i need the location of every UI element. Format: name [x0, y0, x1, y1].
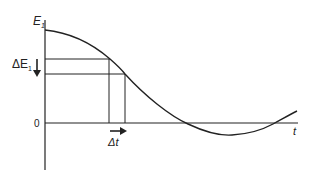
- origin-label: 0: [34, 118, 40, 129]
- y-axis-label: E1: [33, 14, 45, 29]
- energy-curve: [45, 30, 297, 135]
- delta-e-label: ΔE1: [12, 57, 32, 72]
- delta-e-arrowhead-icon: [33, 70, 41, 77]
- x-axis-label: t: [293, 125, 297, 137]
- delta-t-label: Δt: [107, 136, 119, 148]
- energy-time-diagram: E1 ΔE1 0 Δt t: [0, 0, 314, 179]
- delta-t-arrowhead-icon: [120, 127, 127, 135]
